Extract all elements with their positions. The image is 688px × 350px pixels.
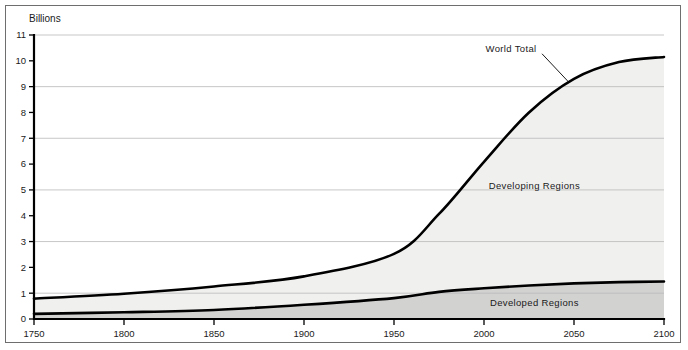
y-tick-label: 11 (16, 29, 26, 40)
x-tick-label: 1800 (113, 328, 134, 339)
world-total-leader-line (542, 54, 569, 82)
y-tick-label: 0 (21, 313, 26, 324)
x-tick-label: 2000 (473, 328, 494, 339)
y-tick-label: 4 (21, 210, 26, 221)
y-tick-label: 5 (21, 184, 26, 195)
developed-regions-label: Developed Regions (490, 297, 579, 308)
x-tick-label: 1950 (383, 328, 404, 339)
world-total-label: World Total (485, 43, 536, 54)
x-tick-label: 2100 (653, 328, 674, 339)
y-tick-label: 10 (15, 55, 26, 66)
y-axis-title: Billions (29, 13, 61, 24)
x-tick-label: 1850 (203, 328, 224, 339)
y-tick-label: 2 (21, 262, 26, 273)
y-tick-label: 3 (21, 236, 26, 247)
y-axis-tick-labels: 01234567891011 (15, 29, 26, 324)
y-tick-label: 9 (21, 81, 26, 92)
y-tick-label: 8 (21, 107, 26, 118)
developing-regions-label: Developing Regions (489, 180, 580, 191)
y-tick-label: 7 (21, 133, 26, 144)
x-tick-label: 1750 (23, 328, 44, 339)
y-tick-label: 1 (21, 288, 26, 299)
chart-frame: 01234567891011 1750180018501900195020002… (5, 5, 681, 343)
population-area-chart: 01234567891011 1750180018501900195020002… (6, 6, 680, 342)
y-tick-label: 6 (21, 158, 26, 169)
x-tick-label: 2050 (563, 328, 584, 339)
x-tick-label: 1900 (293, 328, 314, 339)
x-axis-tick-labels: 17501800185019001950200020502100 (23, 328, 674, 339)
